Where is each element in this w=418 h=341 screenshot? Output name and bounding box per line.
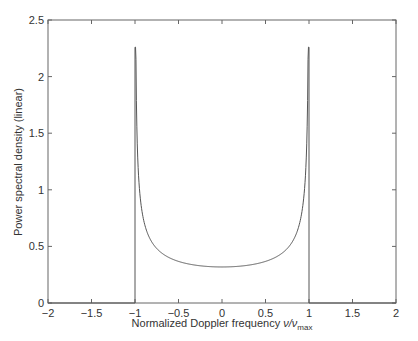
plot-area [48,20,396,303]
x-tick-label: 2 [393,307,399,319]
y-axis-label: Power spectral density (linear) [12,88,24,236]
x-tick-label: 1.5 [345,307,360,319]
x-axis-label: Normalized Doppler frequency ν/νmax [132,317,313,332]
x-tick-label: −1.5 [81,307,103,319]
y-tick-label: 1.5 [29,127,44,139]
y-tick-label: 1 [38,184,44,196]
chart: 00.511.522.5 −2−1.5−1−0.500.511.52 Power… [0,0,418,341]
x-tick-label: −2 [42,307,55,319]
x-tick-label: 1 [306,307,312,319]
y-tick-label: 0.5 [29,240,44,252]
y-tick-label: 2 [38,71,44,83]
y-tick-label: 2.5 [29,14,44,26]
